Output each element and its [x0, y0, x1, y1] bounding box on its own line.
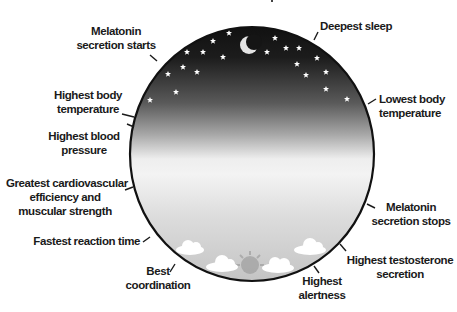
label-highest-body-temperature: Highest body temperature [54, 88, 122, 116]
label-text: Highest [296, 274, 348, 288]
top-mark [271, 0, 273, 2]
label-melatonin-secretion-starts: Melatonin secretion starts [76, 24, 156, 52]
label-text: Highest testosterone [344, 253, 456, 267]
label-text: Fastest reaction time [20, 234, 140, 248]
circadian-diagram: Deepest sleep Lowest body temperature Me… [0, 0, 457, 312]
label-best-coordination: Best coordination [124, 264, 192, 292]
label-text: Melatonin [366, 200, 456, 214]
label-highest-testosterone-secretion: Highest testosterone secretion [344, 253, 456, 281]
label-text: temperature [379, 106, 445, 120]
label-lowest-body-temperature: Lowest body temperature [379, 92, 445, 120]
label-text: Best [124, 264, 192, 278]
label-fastest-reaction-time: Fastest reaction time [20, 234, 140, 248]
label-text: Highest blood [46, 129, 122, 143]
label-text: Lowest body [379, 92, 445, 106]
label-text: secretion stops [366, 214, 456, 228]
label-text: secretion starts [76, 38, 156, 52]
label-text: Greatest cardiovascular [6, 176, 124, 190]
label-highest-blood-pressure: Highest blood pressure [46, 129, 122, 157]
label-greatest-cardiovascular-efficiency: Greatest cardiovascular efficiency and m… [6, 176, 124, 218]
label-text: Highest body [54, 88, 122, 102]
label-text: coordination [124, 278, 192, 292]
clock-face [130, 27, 374, 281]
label-text: secretion [344, 267, 456, 281]
label-text: temperature [54, 102, 122, 116]
label-text: alertness [296, 288, 348, 302]
label-melatonin-secretion-stops: Melatonin secretion stops [366, 200, 456, 228]
label-text: Deepest sleep [320, 19, 392, 33]
label-text: pressure [46, 143, 122, 157]
label-text: muscular strength [6, 204, 124, 218]
label-text: Melatonin [76, 24, 156, 38]
label-highest-alertness: Highest alertness [296, 274, 348, 302]
label-text: efficiency and [6, 190, 124, 204]
label-deepest-sleep: Deepest sleep [320, 19, 392, 33]
